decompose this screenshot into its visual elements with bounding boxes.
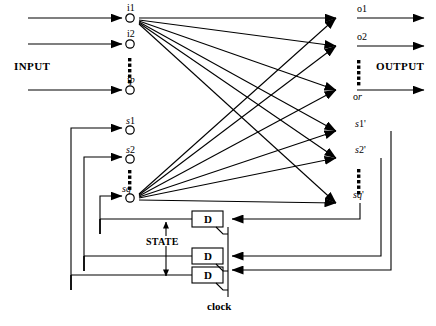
node-label-sq: sq <box>122 184 131 194</box>
state-label: STATE <box>146 237 179 247</box>
input-wires <box>28 18 122 90</box>
diagram-canvas <box>0 0 436 326</box>
node-label-s2: s2 <box>126 145 135 155</box>
vertical-ellipses <box>128 58 360 194</box>
node-label-o1: o1 <box>357 4 367 14</box>
dff-label-3: D <box>204 270 212 281</box>
node-label-or: or <box>353 92 362 102</box>
node-sq <box>126 194 134 202</box>
node-label-s1: s1 <box>126 116 135 126</box>
dff-label-1: D <box>204 214 212 225</box>
node-i1 <box>126 14 134 22</box>
state-feedback-wires <box>71 128 122 290</box>
node-label-ip: ip <box>127 75 135 85</box>
node-label-o2: o2 <box>357 32 367 42</box>
dff-label-2: D <box>204 251 212 262</box>
node-s1 <box>126 126 134 134</box>
crossbar-sq <box>139 18 336 203</box>
output-ellipsis <box>357 60 360 85</box>
output-wires <box>357 18 424 90</box>
node-label-i2: i2 <box>127 29 135 39</box>
node-label-s1-prime: s1' <box>355 119 366 129</box>
node-label-sq-prime: sq' <box>353 190 364 200</box>
node-ip <box>126 86 134 94</box>
nextstate-feedback-wires <box>232 131 391 270</box>
node-i2 <box>126 40 134 48</box>
input-label: INPUT <box>14 61 50 72</box>
fsm-block-diagram: i1 i2 ip s1 s2 sq o1 o2 or s1' s2' sq' D… <box>0 0 436 326</box>
node-s2 <box>126 155 134 163</box>
junction-nodes <box>126 14 134 202</box>
node-label-i1: i1 <box>127 3 135 13</box>
node-label-s2-prime: s2' <box>355 145 366 155</box>
clock-label: clock <box>207 301 231 312</box>
crossbar-i1 <box>139 18 336 203</box>
output-label: OUTPUT <box>376 61 424 72</box>
